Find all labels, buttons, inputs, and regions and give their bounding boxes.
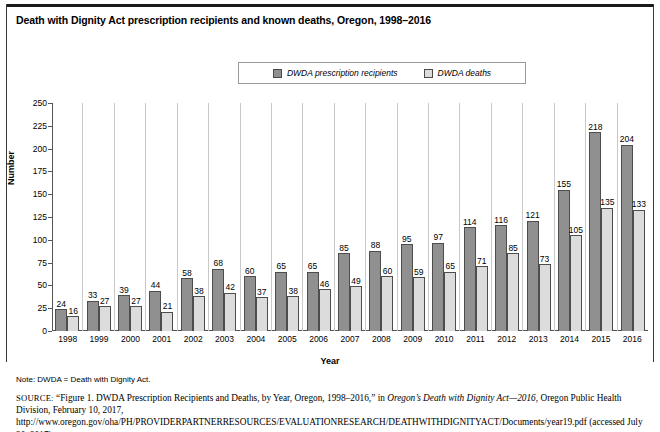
bar-value-label: 204 [620, 135, 634, 146]
bar-pair: 3327 [83, 103, 113, 331]
bar-recipients[interactable]: 121 [527, 221, 539, 331]
y-tick-mark [48, 240, 52, 241]
bar-group: 9559 [398, 103, 429, 331]
bar-group: 218135 [586, 103, 617, 331]
bar-deaths[interactable]: 21 [161, 312, 173, 331]
bar-pair: 5838 [178, 103, 208, 331]
bar-value-label: 21 [163, 302, 172, 313]
legend-swatch-recipients [273, 69, 282, 78]
bar-group: 8860 [366, 103, 397, 331]
figure-source: SOURCE: “Figure 1. DWDA Prescription Rec… [16, 392, 648, 432]
bar-recipients[interactable]: 95 [401, 244, 413, 331]
bar-pair: 11471 [460, 103, 490, 331]
bar-pair: 6842 [209, 103, 239, 331]
x-tick-label: 2000 [121, 334, 140, 344]
bar-recipients[interactable]: 85 [338, 253, 350, 331]
bar-recipients[interactable]: 114 [464, 227, 476, 331]
bar-recipients[interactable]: 24 [55, 309, 67, 331]
x-tick-label: 1999 [90, 334, 109, 344]
bar-deaths[interactable]: 105 [570, 235, 582, 331]
y-tick-label: 150 [18, 189, 52, 199]
bar-value-label: 133 [632, 200, 646, 211]
y-tick-mark [48, 285, 52, 286]
bar-deaths[interactable]: 65 [444, 272, 456, 331]
y-tick-label: 200 [18, 144, 52, 154]
bar-value-label: 27 [100, 297, 109, 308]
bar-deaths[interactable]: 37 [256, 297, 268, 331]
x-tick-label: 2013 [529, 334, 548, 344]
bar-recipients[interactable]: 97 [432, 243, 444, 331]
bar-deaths[interactable]: 27 [130, 306, 142, 331]
bar-recipients[interactable]: 44 [149, 291, 161, 331]
bar-recipients[interactable]: 218 [589, 132, 601, 331]
bar-group: 6538 [272, 103, 303, 331]
bar-groups: 2416332739274421583868426037653865468549… [52, 103, 648, 331]
bar-value-label: 46 [320, 280, 329, 291]
bar-group: 6546 [303, 103, 334, 331]
bar-recipients[interactable]: 39 [118, 295, 130, 331]
bar-recipients[interactable]: 204 [621, 145, 633, 331]
y-tick-mark [48, 308, 52, 309]
bar-group: 5838 [178, 103, 209, 331]
bar-recipients[interactable]: 68 [212, 269, 224, 331]
legend-label-recipients: DWDA prescription recipients [287, 68, 398, 78]
bar-deaths[interactable]: 38 [287, 296, 299, 331]
source-prefix: SOURCE: [16, 393, 54, 403]
bar-value-label: 24 [56, 300, 65, 311]
bar-deaths[interactable]: 71 [476, 266, 488, 331]
bar-deaths[interactable]: 133 [633, 210, 645, 331]
bar-group: 3927 [115, 103, 146, 331]
bar-pair: 12173 [523, 103, 553, 331]
x-tick-label: 2011 [466, 334, 484, 344]
y-tick-mark [48, 149, 52, 150]
bar-group: 204133 [618, 103, 648, 331]
y-tick-mark [48, 103, 52, 104]
x-tick-label: 2016 [623, 334, 642, 344]
y-axis-label: Number [6, 151, 16, 185]
y-tick-mark [48, 194, 52, 195]
bar-recipients[interactable]: 65 [275, 272, 287, 331]
y-tick-mark [48, 331, 52, 332]
x-tick-label: 2007 [341, 334, 360, 344]
bar-group: 6842 [209, 103, 240, 331]
y-tick-mark [48, 217, 52, 218]
bar-value-label: 95 [402, 235, 411, 246]
bar-group: 3327 [83, 103, 114, 331]
bar-value-label: 33 [88, 291, 97, 302]
x-tick-label: 2003 [215, 334, 234, 344]
bar-group: 9765 [429, 103, 460, 331]
y-tick-label: 25 [18, 303, 52, 313]
bar-value-label: 121 [525, 211, 539, 222]
bar-recipients[interactable]: 33 [87, 301, 99, 331]
bar-value-label: 42 [226, 283, 235, 294]
bar-recipients[interactable]: 116 [495, 225, 507, 331]
bar-pair: 204133 [618, 103, 648, 331]
bar-deaths[interactable]: 46 [319, 289, 331, 331]
bar-deaths[interactable]: 38 [193, 296, 205, 331]
bar-value-label: 65 [308, 262, 317, 273]
bar-recipients[interactable]: 88 [369, 251, 381, 331]
bar-recipients[interactable]: 155 [558, 190, 570, 331]
bar-pair: 9765 [429, 103, 459, 331]
bar-deaths[interactable]: 42 [224, 293, 236, 331]
bar-deaths[interactable]: 73 [539, 264, 551, 331]
bar-recipients[interactable]: 60 [244, 276, 256, 331]
x-tick-label: 2006 [309, 334, 328, 344]
bar-group: 4421 [146, 103, 177, 331]
bar-value-label: 68 [214, 259, 223, 270]
bar-recipients[interactable]: 58 [181, 278, 193, 331]
bar-deaths[interactable]: 49 [350, 286, 362, 331]
bar-deaths[interactable]: 60 [381, 276, 393, 331]
bar-deaths[interactable]: 16 [67, 316, 79, 331]
bar-deaths[interactable]: 27 [99, 306, 111, 331]
y-tick-label: 75 [18, 258, 52, 268]
bar-recipients[interactable]: 65 [307, 272, 319, 331]
bar-value-label: 114 [463, 218, 477, 229]
bar-value-label: 88 [371, 241, 380, 252]
bar-value-label: 16 [68, 307, 77, 318]
bar-deaths[interactable]: 85 [507, 253, 519, 331]
bar-deaths[interactable]: 135 [601, 208, 613, 331]
bar-value-label: 59 [414, 268, 423, 279]
bar-deaths[interactable]: 59 [413, 277, 425, 331]
chart-legend: DWDA prescription recipients DWDA deaths [238, 62, 526, 84]
